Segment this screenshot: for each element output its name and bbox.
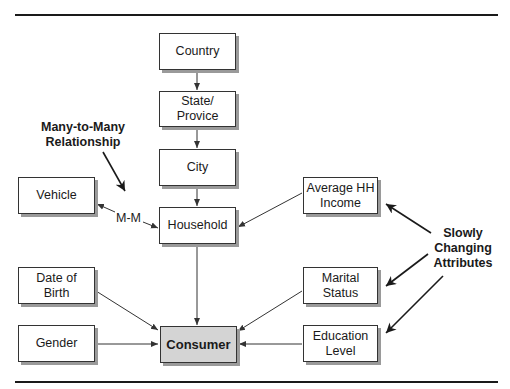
node-average-hh-income: Average HH Income — [303, 177, 378, 214]
slowly-changing-attributes-annotation: Slowly Changing Attributes — [430, 226, 496, 271]
many-to-many-annotation: Many-to-Many Relationship — [38, 120, 128, 150]
node-state-province: State/ Provice — [159, 91, 236, 127]
node-country: Country — [159, 33, 236, 70]
node-marital-status: Marital Status — [303, 267, 378, 304]
node-city: City — [159, 149, 236, 186]
node-vehicle: Vehicle — [18, 177, 95, 214]
node-consumer: Consumer — [160, 326, 237, 363]
node-gender: Gender — [18, 325, 95, 362]
node-date-of-birth: Date of Birth — [18, 267, 95, 304]
mm-edge-label: M-M — [116, 211, 141, 225]
node-education-level: Education Level — [303, 325, 378, 362]
node-household: Household — [159, 207, 236, 244]
